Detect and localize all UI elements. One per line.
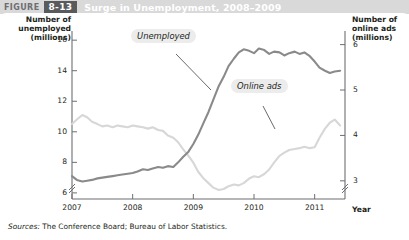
source-note: Sources: The Conference Board; Bureau of…: [8, 222, 227, 231]
figure-title: Surge in Unemployment, 2008–2009: [84, 2, 281, 13]
source-prefix: Sources:: [8, 222, 40, 231]
leader-line-unemployed: [176, 54, 211, 90]
series-label-online-ads: Online ads: [231, 79, 288, 93]
source-text: The Conference Board; Bureau of Labor St…: [42, 222, 227, 231]
figure-container: FIGURE 8-13 Surge in Unemployment, 2008–…: [0, 0, 409, 240]
chart-plot-area: [0, 13, 409, 218]
series-line-online-ads: [72, 115, 340, 190]
figure-number-badge: 8-13: [44, 1, 78, 14]
figure-word: FIGURE: [4, 3, 40, 12]
figure-header: FIGURE 8-13 Surge in Unemployment, 2008–…: [0, 0, 409, 14]
series-label-unemployed: Unemployed: [131, 29, 196, 43]
series-line-unemployed: [72, 49, 340, 182]
leader-line-online-ads: [263, 106, 275, 129]
